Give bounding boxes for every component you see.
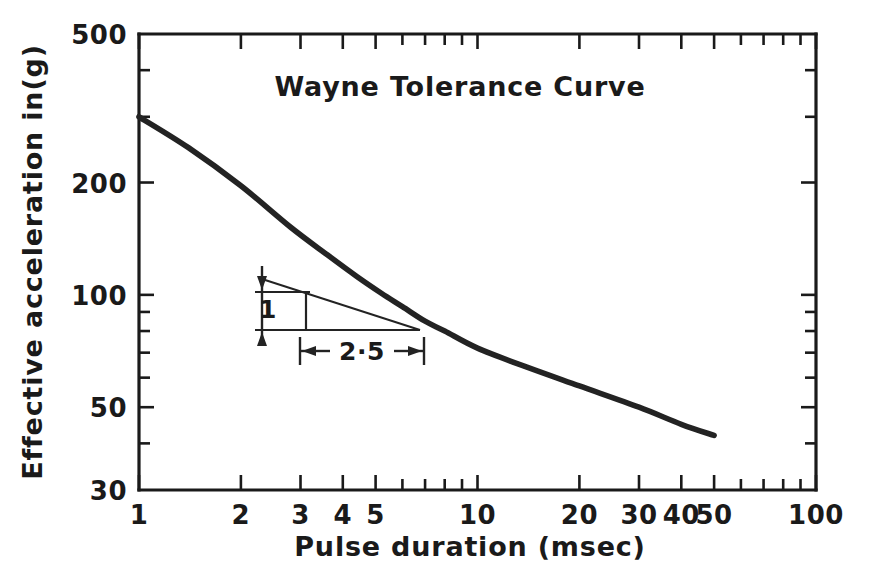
x-tick-label-1: 1 — [130, 500, 149, 530]
x-tick-label-2: 2 — [232, 500, 251, 530]
tolerance-curve-line — [139, 117, 714, 436]
y-tick-label-50: 50 — [90, 393, 127, 423]
x-axis-ticks-bottom — [139, 475, 816, 490]
y-tick-label-500: 500 — [71, 20, 127, 50]
run-arrow-left — [302, 346, 316, 356]
x-axis-tick-labels: 123451020304050100 — [130, 500, 844, 530]
y-axis-tick-labels: 5002001005030 — [71, 20, 127, 506]
wayne-tolerance-curve-chart: 123451020304050100 5002001005030 1 — [0, 0, 881, 577]
x-tick-label-5: 5 — [366, 500, 385, 530]
x-tick-label-4: 4 — [334, 500, 353, 530]
y-tick-label-200: 200 — [71, 169, 127, 199]
x-tick-label-30: 30 — [620, 500, 657, 530]
y-tick-label-30: 30 — [90, 476, 127, 506]
x-tick-label-20: 20 — [561, 500, 598, 530]
y-axis-title: Effective acceleration in(g) — [17, 44, 48, 480]
run-label: 2·5 — [339, 337, 385, 366]
x-axis-ticks-top — [139, 34, 816, 49]
slope-triangle-annotation: 1 2·5 — [255, 266, 424, 366]
x-axis-title: Pulse duration (msec) — [294, 531, 645, 562]
chart-figure: 123451020304050100 5002001005030 1 — [0, 0, 881, 577]
rise-label: 1 — [259, 295, 277, 324]
x-tick-label-40: 40 — [663, 500, 700, 530]
x-tick-label-3: 3 — [291, 500, 310, 530]
x-tick-label-100: 100 — [788, 500, 844, 530]
rise-arrow-down — [257, 332, 267, 346]
x-tick-label-50: 50 — [696, 500, 733, 530]
rise-arrow-up — [257, 276, 267, 290]
plot-frame — [139, 34, 816, 490]
y-tick-label-100: 100 — [71, 281, 127, 311]
x-tick-label-10: 10 — [459, 500, 496, 530]
y-axis-ticks-right — [801, 70, 816, 443]
run-arrow-right — [408, 346, 422, 356]
chart-title: Wayne Tolerance Curve — [274, 71, 645, 102]
